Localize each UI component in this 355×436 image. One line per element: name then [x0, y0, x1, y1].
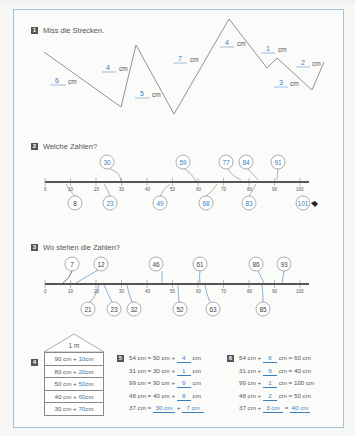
eq-row: 48 cm + 2 cm = 50 cm [227, 390, 314, 403]
eq-row: 48 cm = 40 cm + 8 cm [117, 390, 204, 403]
house-row: 30 cm + 70cm [44, 403, 104, 416]
answer-blank[interactable]: 30 cm [153, 403, 175, 413]
house-row: 40 cm + 60cm [44, 391, 104, 404]
roof-label: 1 m [69, 342, 80, 349]
eq-row: 654 cm + 6 cm = 60 cm [227, 352, 314, 365]
answer-blank[interactable]: 4 [177, 353, 191, 363]
ex4-house-table: 90 cm + 10cm 80 cm + 20cm 50 cm + 50cm 4… [44, 352, 104, 416]
answer-blank[interactable]: 7 cm [182, 403, 204, 413]
house-row: 90 cm + 10cm [44, 353, 104, 366]
eq-row: 554 cm = 50 cm + 4 cm [117, 352, 204, 365]
answer-blank[interactable]: 9 [263, 366, 277, 376]
eq-row: 31 cm = 30 cm + 1 cm [117, 365, 204, 378]
house-row: 80 cm + 20cm [44, 366, 104, 379]
house-row: 50 cm + 50cm [44, 378, 104, 391]
eq-row: 31 cm + 9 cm = 40 cm [227, 365, 314, 378]
answer-blank[interactable]: 2 [263, 391, 277, 401]
eq-row: 37 cm = 30 cm + 7 cm [117, 402, 204, 415]
eq-row: 99 cm = 90 cm + 9 cm [117, 377, 204, 390]
answer-blank[interactable]: 1 [177, 366, 191, 376]
eq-row: 37 cm + 3 cm = 40 cm [227, 402, 314, 415]
answer-blank[interactable]: 8 [177, 391, 191, 401]
eq-row: 99 cm + 1 cm = 100 cm [227, 377, 314, 390]
ex6-equations: 654 cm + 6 cm = 60 cm 31 cm + 9 cm = 40 … [227, 352, 314, 415]
answer-blank[interactable]: 9 [177, 378, 191, 388]
answer-blank[interactable]: 1 [263, 378, 277, 388]
ex5-equations: 554 cm = 50 cm + 4 cm 31 cm = 30 cm + 1 … [117, 352, 204, 415]
answer-blank[interactable]: 6 [263, 353, 277, 363]
answer-blank[interactable]: 40 cm [290, 403, 310, 413]
answer-blank[interactable]: 3 cm [263, 403, 283, 413]
